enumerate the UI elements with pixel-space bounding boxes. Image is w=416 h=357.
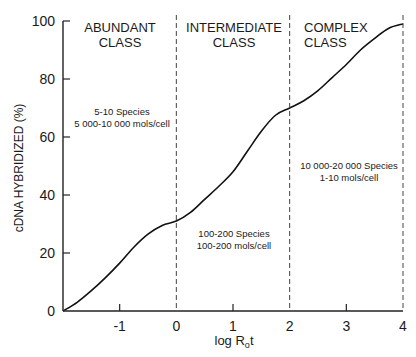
- y-tick-label: 100: [32, 13, 56, 29]
- y-tick-label: 20: [39, 245, 55, 261]
- x-tick-label: 4: [399, 318, 407, 334]
- complex-title-2: CLASS: [304, 35, 347, 50]
- intermediate-title-1: INTERMEDIATE: [186, 20, 282, 35]
- y-tick-label: 0: [47, 303, 55, 319]
- x-axis-label: log Rot: [215, 333, 254, 350]
- x-axis-label-main: log R: [215, 333, 245, 348]
- y-tick-label: 80: [39, 71, 55, 87]
- complex-species: 10 000-20 000 Species: [300, 160, 398, 171]
- x-tick-label: 2: [286, 318, 294, 334]
- x-tick-label: 3: [342, 318, 350, 334]
- y-tick-label: 40: [39, 187, 55, 203]
- intermediate-mols: 100-200 mols/cell: [197, 240, 271, 251]
- intermediate-title-2: CLASS: [213, 35, 256, 50]
- x-axis-label-suffix: t: [250, 333, 254, 348]
- y-ticks: 020406080100: [32, 13, 70, 319]
- abundant-title-2: CLASS: [99, 35, 142, 50]
- abundant-mols: 5 000-10 000 mols/cell: [74, 118, 170, 129]
- intermediate-species: 100-200 Species: [198, 228, 270, 239]
- complex-title-1: COMPLEX: [304, 20, 368, 35]
- hybridization-chart: 020406080100 -101234 ABUNDANT CLASS INTE…: [0, 0, 416, 357]
- complex-mols: 1-10 mols/cell: [320, 172, 379, 183]
- y-axis-label: cDNA HYBRIDIZED (%): [12, 104, 26, 233]
- x-tick-label: -1: [113, 318, 126, 334]
- abundant-title-1: ABUNDANT: [84, 20, 156, 35]
- x-tick-label: 1: [229, 318, 237, 334]
- y-tick-label: 60: [39, 129, 55, 145]
- abundant-species: 5-10 Species: [94, 106, 150, 117]
- x-ticks: -101234: [113, 304, 407, 334]
- x-tick-label: 0: [172, 318, 180, 334]
